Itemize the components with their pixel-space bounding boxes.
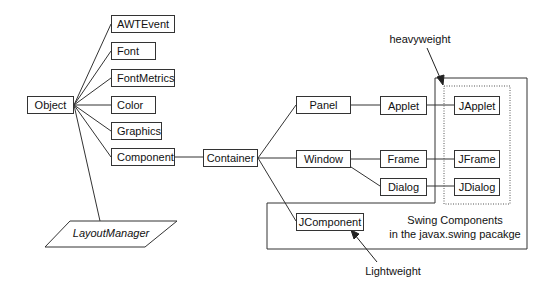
node-awtevent: AWTEvent: [111, 15, 175, 33]
node-font: Font: [111, 42, 156, 60]
swing-caption-line1: Swing Components: [385, 214, 525, 226]
swing-caption-line2: in the javax.swing pacakge: [385, 228, 525, 240]
node-jframe: JFrame: [454, 150, 500, 168]
node-layoutmanager: LayoutManager: [55, 227, 167, 239]
node-window: Window: [296, 150, 351, 168]
node-fontmetrics: FontMetrics: [111, 69, 175, 87]
connector-lines: [0, 0, 553, 294]
annotation-lightweight: Lightweight: [362, 265, 424, 277]
node-object: Object: [27, 96, 74, 114]
node-component: Component: [111, 148, 175, 166]
node-jcomponent: JComponent: [296, 213, 364, 231]
node-panel: Panel: [296, 96, 351, 114]
node-container: Container: [203, 149, 258, 167]
node-dialog: Dialog: [380, 178, 427, 196]
node-frame: Frame: [380, 150, 427, 168]
node-jdialog: JDialog: [454, 178, 500, 196]
class-hierarchy-diagram: Object AWTEvent Font FontMetrics Color G…: [0, 0, 553, 294]
node-color: Color: [111, 96, 156, 114]
node-graphics: Graphics: [111, 122, 162, 140]
node-japplet: JApplet: [454, 96, 500, 115]
node-applet: Applet: [380, 96, 427, 115]
annotation-heavyweight: heavyweight: [385, 33, 455, 45]
